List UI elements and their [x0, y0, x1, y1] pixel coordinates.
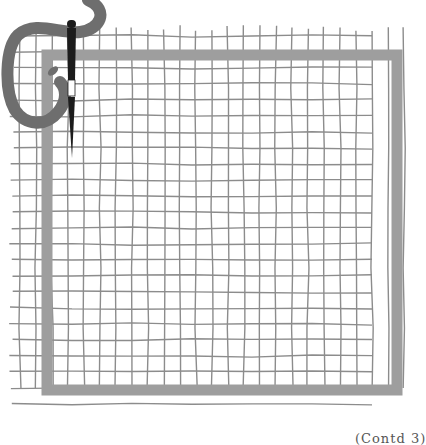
needle-icon	[67, 20, 76, 158]
continued-caption: (Contd 3)	[355, 431, 426, 445]
yarn-strand-icon	[7, 0, 100, 123]
